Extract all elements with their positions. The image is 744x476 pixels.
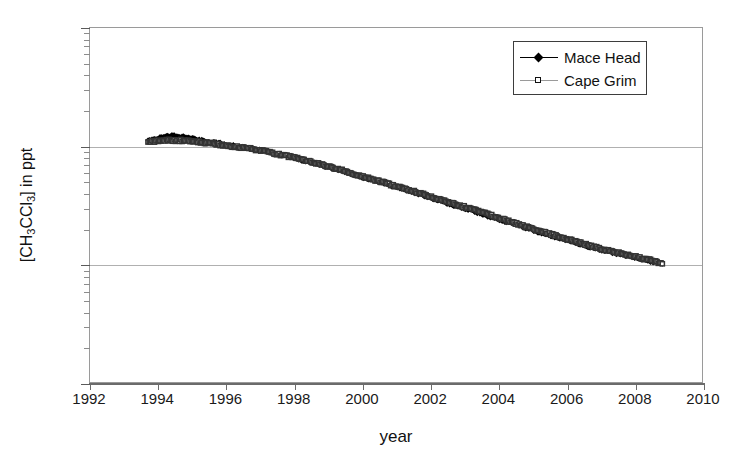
legend-marker-filled-diamond-icon [520, 51, 558, 65]
legend-entry-mace-head: Mace Head [520, 46, 640, 69]
y-tick-major-1 [81, 384, 90, 385]
x-tick-2006 [568, 383, 569, 390]
x-tick-2010 [704, 383, 705, 390]
x-tick-label-1998: 1998 [277, 391, 310, 406]
legend-label-cape-grim: Cape Grim [564, 73, 637, 88]
x-tick-1998 [295, 383, 296, 390]
x-tick-labels: 1992199419961998200020022004200620082010 [0, 391, 744, 415]
x-tick-2008 [636, 383, 637, 390]
x-tick-label-2000: 2000 [345, 391, 378, 406]
y-tick-major-1000 [81, 28, 90, 29]
x-tick-label-1992: 1992 [72, 391, 105, 406]
x-tick-layer [90, 383, 702, 391]
x-tick-1996 [226, 383, 227, 390]
x-axis-title: year [89, 427, 703, 447]
series-cape-grim [146, 137, 665, 266]
x-tick-label-1996: 1996 [209, 391, 242, 406]
x-tick-2002 [431, 383, 432, 390]
x-tick-label-2010: 2010 [686, 391, 719, 406]
y-tick-major-100 [81, 147, 90, 148]
legend-marker-open-square-icon [520, 74, 558, 88]
legend-label-mace-head: Mace Head [564, 50, 641, 65]
x-tick-label-2008: 2008 [618, 391, 651, 406]
x-tick-label-2002: 2002 [413, 391, 446, 406]
x-tick-1994 [158, 383, 159, 390]
x-tick-label-2004: 2004 [482, 391, 515, 406]
legend-entry-cape-grim: Cape Grim [520, 69, 640, 92]
legend: Mace Head Cape Grim [513, 41, 647, 95]
x-tick-2004 [499, 383, 500, 390]
x-tick-2000 [363, 383, 364, 390]
x-tick-label-1994: 1994 [141, 391, 174, 406]
chart-figure: [CH3CCl3] in ppt Mace Head Cape Grim [0, 0, 744, 476]
y-tick-major-10 [81, 265, 90, 266]
x-tick-label-2006: 2006 [550, 391, 583, 406]
data-point [660, 262, 664, 266]
plot-area: Mace Head Cape Grim [89, 27, 703, 383]
x-tick-1992 [90, 383, 91, 390]
